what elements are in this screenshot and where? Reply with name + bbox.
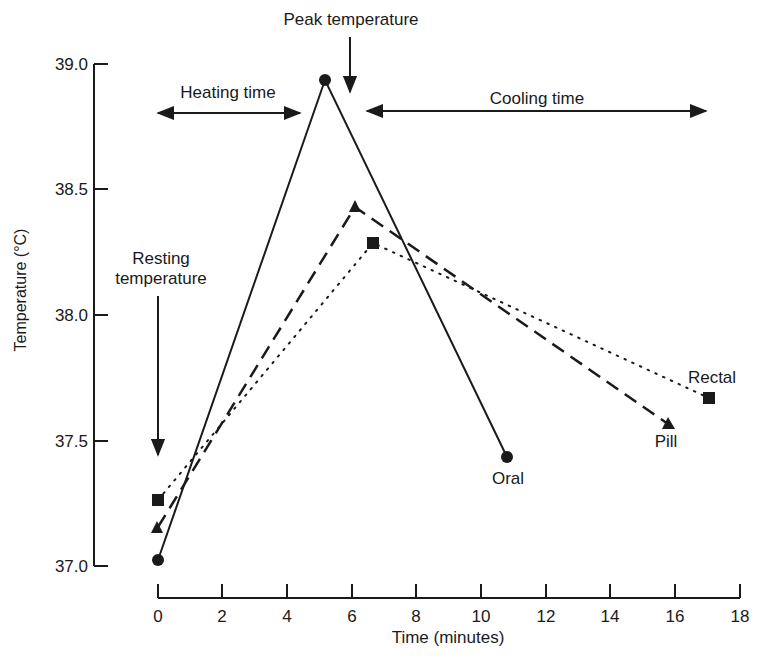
series-rectal (152, 237, 715, 506)
x-tick-label: 0 (153, 607, 162, 626)
x-tick-label: 4 (282, 607, 291, 626)
x-tick-label: 2 (217, 607, 226, 626)
circle-marker (319, 74, 331, 86)
x-tick-labels: 0 2 4 6 8 10 12 14 16 18 (153, 607, 749, 626)
x-tick-label: 8 (411, 607, 420, 626)
series-label-pill: Pill (655, 432, 678, 451)
x-tick-label: 18 (731, 607, 750, 626)
circle-marker (501, 451, 513, 463)
x-axis-label: Time (minutes) (392, 628, 505, 647)
y-tick-labels: 39.0 38.5 38.0 37.5 37.0 (55, 55, 88, 576)
square-marker (367, 237, 379, 249)
circle-marker (152, 554, 164, 566)
square-marker (152, 494, 164, 506)
temperature-chart: 39.0 38.5 38.0 37.5 37.0 Temperature (°C… (0, 0, 765, 663)
x-axis (158, 584, 740, 598)
x-tick-label: 16 (666, 607, 685, 626)
triangle-marker (662, 417, 675, 429)
y-axis-label: Temperature (°C) (12, 229, 29, 352)
resting-temperature-label-line2: temperature (115, 269, 207, 288)
resting-temperature-label-line1: Resting (132, 249, 190, 268)
series-oral (152, 74, 513, 566)
series-pill (151, 200, 675, 533)
triangle-marker (349, 200, 361, 212)
x-tick-label: 10 (472, 607, 491, 626)
y-tick-label: 37.0 (55, 557, 88, 576)
square-marker (703, 392, 715, 404)
y-axis (94, 64, 108, 566)
peak-temperature-label: Peak temperature (283, 10, 418, 29)
series-label-rectal: Rectal (688, 368, 736, 387)
x-tick-label: 12 (537, 607, 556, 626)
heating-time-label: Heating time (180, 83, 275, 102)
x-tick-label: 6 (347, 607, 356, 626)
y-tick-label: 37.5 (55, 432, 88, 451)
y-tick-label: 38.0 (55, 306, 88, 325)
y-tick-label: 38.5 (55, 180, 88, 199)
x-tick-label: 14 (601, 607, 620, 626)
series-label-oral: Oral (492, 469, 524, 488)
y-tick-label: 39.0 (55, 55, 88, 74)
cooling-time-label: Cooling time (490, 89, 585, 108)
